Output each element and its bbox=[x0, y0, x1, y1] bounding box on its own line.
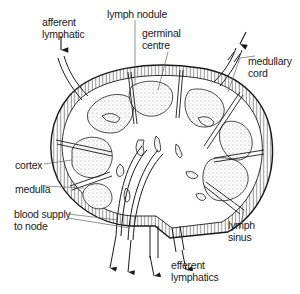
label-medulla: medulla bbox=[15, 183, 50, 195]
label-blood-supply: blood supply to node bbox=[14, 208, 71, 232]
label-lymph-nodule: lymph nodule bbox=[107, 8, 167, 20]
label-efferent-lymphatics: efferent lymphatics bbox=[171, 259, 219, 283]
label-medullary-cord: medullary cord bbox=[248, 55, 292, 79]
label-cortex: cortex bbox=[15, 159, 42, 171]
label-germinal-centre: germinal centre bbox=[142, 27, 181, 51]
label-afferent-lymphatic: afferent lymphatic bbox=[42, 16, 85, 40]
label-lymph-sinus: lymph sinus bbox=[228, 219, 255, 243]
